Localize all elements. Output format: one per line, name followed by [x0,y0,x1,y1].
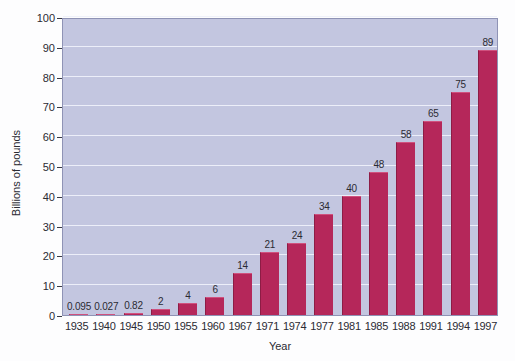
bar [396,142,415,315]
gridline [63,16,497,17]
bar-value-label: 6 [195,284,235,295]
bar [178,303,197,315]
bar-value-label: 89 [468,37,508,48]
bar [478,50,497,315]
bar [69,314,88,316]
bar [260,252,279,315]
y-axis: Billions of pounds 010203040506070809010… [0,0,62,361]
bar [205,297,224,315]
bar-value-label: 24 [277,230,317,241]
y-tick-label: 40 [43,191,55,203]
y-tick-label: 90 [43,42,55,54]
bar [451,92,470,316]
y-tick-label: 10 [43,280,55,292]
bar [96,314,115,316]
bar-value-label: 65 [413,108,453,119]
bar [124,313,143,315]
bar [369,172,388,315]
y-tick-label: 50 [43,161,55,173]
chart-page: Billions of pounds 010203040506070809010… [0,0,515,361]
bar-series: 0.0950.0270.8224614212434404858657589 [63,19,497,315]
bar-value-label: 58 [386,129,426,140]
y-tick-label: 80 [43,72,55,84]
bar [342,196,361,315]
bar-value-label: 48 [359,159,399,170]
bar-value-label: 34 [304,201,344,212]
x-axis-title: Year [62,340,498,352]
y-tick-label: 100 [37,12,55,24]
y-tick-label: 20 [43,250,55,262]
bar [233,273,252,315]
plot-area: 0.0950.0270.8224614212434404858657589 [62,18,498,316]
bar [314,214,333,315]
x-axis: Year 19351940194519501955196019671971197… [62,316,498,361]
y-tick-label: 30 [43,221,55,233]
bar [151,309,170,315]
x-tick-label: 1997 [465,320,505,332]
y-tick-label: 0 [49,310,55,322]
y-tick-label: 60 [43,131,55,143]
bar-value-label: 40 [332,183,372,194]
y-tick-label: 70 [43,101,55,113]
bar-value-label: 75 [441,79,481,90]
bar [287,243,306,315]
y-axis-title: Billions of pounds [10,93,22,253]
bar [423,121,442,315]
bar-value-label: 14 [223,260,263,271]
